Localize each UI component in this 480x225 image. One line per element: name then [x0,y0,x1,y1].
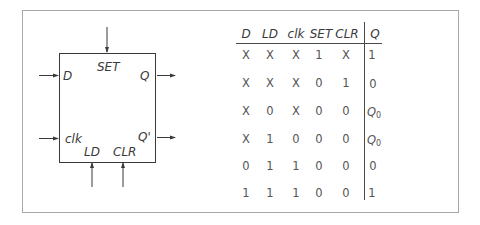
cell-set: 0 [315,104,322,118]
cell-set: 0 [315,186,322,200]
cell-d: X [242,104,250,118]
cell-ld: X [266,76,274,90]
header-clk: clk [288,27,305,41]
cell-set: 0 [315,159,322,173]
q0-main: Q [367,105,376,119]
cell-clr: 1 [342,76,349,90]
cell-d: X [242,132,250,146]
header-clr: CLR [335,27,358,41]
q0-subscript: 0 [376,139,381,148]
cell-clr: 0 [342,132,349,146]
cell-clk: 0 [292,132,299,146]
cell-clr: X [342,48,350,62]
q0-subscript: 0 [376,111,381,120]
cell-ld: 1 [266,186,273,200]
cell-q: 1 [368,186,375,200]
cell-clk: X [292,76,300,90]
header-q: Q [370,27,379,41]
cell-q: 0 [369,159,376,173]
cell-clk: X [292,104,300,118]
cell-clk: 1 [292,159,299,173]
cell-ld: 1 [266,159,273,173]
q-label: Q [140,69,149,83]
cell-d: 1 [242,186,249,200]
d-label: D [63,69,72,83]
cell-d: 0 [242,159,249,173]
header-ld: LD [262,27,278,41]
header-divider [236,43,382,44]
ld-label: LD [84,145,100,159]
cell-d: X [242,48,250,62]
cell-ld: 0 [266,104,273,118]
cell-clr: 0 [342,104,349,118]
cell-set: 1 [315,48,322,62]
cell-clk: X [292,48,300,62]
cell-q: 1 [368,48,375,62]
clr-label: CLR [113,145,136,159]
cell-d: X [242,76,250,90]
output-divider [364,22,365,200]
q0-main: Q [367,133,376,147]
header-d: D [241,27,250,41]
cell-ld: X [266,48,274,62]
qbar-label: Q' [138,130,151,144]
clk-label: clk [65,132,83,146]
cell-clr: 0 [342,186,349,200]
cell-q: Q0 [367,133,381,148]
cell-q: Q0 [367,105,381,120]
cell-set: 0 [315,76,322,90]
header-set: SET [310,27,333,41]
flipflop-block-diagram: SET D Q clk Q' LD CLR [0,0,480,225]
cell-set: 0 [315,132,322,146]
cell-clk: 1 [292,186,299,200]
cell-clr: 0 [342,159,349,173]
cell-ld: 1 [266,132,273,146]
cell-q: 0 [369,77,376,91]
set-label: SET [97,60,121,74]
